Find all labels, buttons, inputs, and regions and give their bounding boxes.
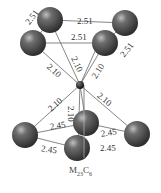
- caption-text: M: [69, 165, 77, 175]
- bond-length-label: 2.10: [66, 106, 76, 122]
- metal-atom: [92, 30, 118, 56]
- metal-atom: [12, 122, 38, 148]
- bond-length-label: 2.45: [40, 143, 57, 155]
- carbon-atom: [76, 81, 84, 89]
- metal-atom: [20, 30, 46, 56]
- bond-length-label: 2.10: [46, 95, 65, 113]
- bond-length-label: 2.10: [45, 62, 64, 80]
- metal-atom: [37, 7, 63, 33]
- bond-length-label: 2.51: [71, 32, 87, 42]
- bond-length-label: 2.10: [69, 55, 85, 74]
- metal-atom: [64, 135, 90, 161]
- metal-atom: [112, 10, 138, 36]
- bond-length-label: 2.10: [95, 90, 114, 108]
- bond-length-label: 2.51: [118, 40, 136, 59]
- metal-atom: [124, 121, 150, 147]
- bond-length-label: 2.45: [100, 126, 117, 138]
- caption-subscript: 6: [89, 171, 92, 177]
- diagram-caption: M23C6: [0, 165, 161, 177]
- bond-length-label: 2.45: [100, 143, 116, 153]
- bond-length-label: 2.45: [49, 119, 67, 132]
- bond-length-label: 2.10: [89, 61, 106, 80]
- bond-length-label: 2.51: [77, 16, 93, 26]
